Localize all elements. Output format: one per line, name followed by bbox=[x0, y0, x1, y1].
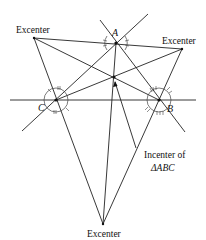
angle-arc-a-right bbox=[125, 36, 127, 50]
excenter-point-left bbox=[33, 37, 35, 39]
excenter-line-top bbox=[34, 38, 182, 49]
vertex-c-label: C bbox=[38, 102, 45, 113]
incenter-label-line2: ΔABC bbox=[150, 163, 175, 173]
vertex-a-label: A bbox=[111, 27, 119, 38]
incenter-arrow bbox=[115, 82, 136, 148]
excenter-point-bottom bbox=[102, 223, 104, 225]
excenter-label-left: Excenter bbox=[16, 25, 51, 35]
excenter-line-right bbox=[103, 49, 182, 224]
excenter-label-right: Excenter bbox=[162, 36, 197, 46]
vertex-b-label: B bbox=[167, 103, 173, 114]
arrow-head-icon bbox=[113, 81, 118, 87]
incenter-point bbox=[112, 75, 115, 78]
bisector-line-c bbox=[56, 49, 182, 100]
bisector-line-b bbox=[34, 38, 159, 100]
vertex-c-point bbox=[54, 98, 57, 101]
triangle-diagram: A B C Excenter Excenter Excenter Incente… bbox=[0, 0, 206, 240]
excenter-label-bottom: Excenter bbox=[87, 229, 122, 239]
internal-bisector-a bbox=[103, 43, 116, 224]
excenter-point-right bbox=[181, 48, 183, 50]
vertex-a-point bbox=[114, 41, 117, 44]
vertex-b-point bbox=[157, 98, 160, 101]
incenter-label-line1: Incenter of bbox=[144, 150, 186, 160]
